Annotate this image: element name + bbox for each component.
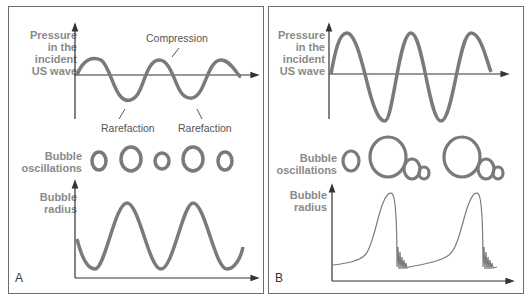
arrow-icon — [501, 72, 508, 77]
arrow-icon — [251, 73, 258, 78]
arrow-icon — [251, 276, 258, 281]
panel-b-graphics — [269, 7, 525, 295]
pressure-wave-curve — [77, 59, 241, 101]
arrow-icon — [506, 279, 513, 284]
panel-a-graphics — [9, 7, 265, 295]
arrow-icon — [73, 181, 78, 188]
bubble-radius-curve — [77, 203, 243, 269]
arrow-icon — [330, 185, 335, 192]
panel-b-inertial-cavitation: Pressurein theincidentUS wave Bubbleosci… — [268, 6, 524, 294]
arrow-icon — [327, 24, 332, 31]
panel-a-stable-cavitation: Pressurein theincidentUS wave Compressio… — [8, 6, 264, 294]
arrow-icon — [73, 24, 78, 31]
bubble-oscillation-icons — [92, 147, 232, 171]
bubble-radius-curve — [333, 193, 497, 269]
bubble-oscillation-icons — [343, 137, 503, 179]
pressure-wave-curve — [331, 33, 491, 121]
